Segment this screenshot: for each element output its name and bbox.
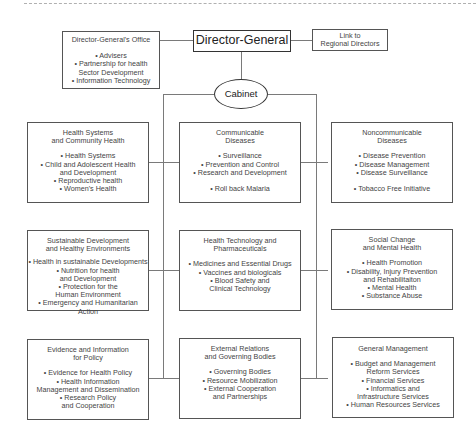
cluster-title: Noncommunicable Diseases <box>332 129 452 145</box>
list-item: • Blood Safety and Clinical Technology <box>180 277 300 293</box>
dg-office-title: Director-General's Office <box>63 36 159 44</box>
list-item: • Emergency and Humanitarian Action <box>28 299 148 315</box>
list-item: • Health Information Management and Diss… <box>28 378 148 394</box>
list-item: • Disability, Injury Prevention and Reha… <box>332 268 452 284</box>
cluster-title: Evidence and Information for Policy <box>28 346 148 362</box>
connector-right-vertical <box>316 94 317 379</box>
dg-office-list: • Advisers • Partnership for health Sect… <box>63 52 159 85</box>
cluster-list: • Medicines and Essential Drugs • Vaccin… <box>180 260 300 293</box>
cluster-title: General Management <box>333 345 453 353</box>
connector-cabinet-right <box>268 94 316 95</box>
dg-office-box: Director-General's Office • Advisers • P… <box>62 31 160 89</box>
list-item: • External Cooperation and Partnerships <box>180 385 300 401</box>
list-item: • Substance Abuse <box>332 292 452 300</box>
cluster-list: • Budget and Management Reform Services … <box>333 360 453 409</box>
cluster-list: • Health Promotion • Disability, Injury … <box>332 259 452 300</box>
top-dashed-rule <box>24 3 476 4</box>
cluster-sustainable-development: Sustainable Development and Healthy Envi… <box>27 230 149 311</box>
list-item: • Roll back Malaria <box>180 185 300 193</box>
cluster-title: Communicable Diseases <box>180 129 300 145</box>
cluster-general-management: General Management • Budget and Manageme… <box>332 337 454 418</box>
cluster-list: • Health Systems • Child and Adolescent … <box>28 152 148 193</box>
list-item: • Information Technology <box>63 77 159 85</box>
cluster-title: Health Systems and Community Health <box>28 129 148 145</box>
cluster-noncommunicable-diseases: Noncommunicable Diseases • Disease Preve… <box>331 122 453 203</box>
connector-cabinet-left <box>163 94 214 95</box>
cluster-title: External Relations and Governing Bodies <box>180 345 300 361</box>
director-general-box: Director-General <box>193 30 291 52</box>
cluster-health-systems: Health Systems and Community Health • He… <box>27 122 149 203</box>
cluster-evidence-information: Evidence and Information for Policy • Ev… <box>27 339 149 420</box>
list-item: • Nutrition for health and Development <box>28 267 148 283</box>
cluster-health-technology: Health Technology and Pharmaceuticals • … <box>179 230 301 311</box>
cluster-list: • Evidence for Health Policy • Health In… <box>28 369 148 410</box>
list-item: • Protection for the Human Environment <box>28 283 148 299</box>
connector-dg-link <box>291 40 312 41</box>
cluster-title: Health Technology and Pharmaceuticals <box>180 237 300 253</box>
cluster-list: • Governing Bodies • Resource Mobilizati… <box>180 368 300 401</box>
cluster-title: Social Change and Mental Health <box>332 236 452 252</box>
list-item: • Disease Surveillance <box>332 169 452 177</box>
list-item: • Research and Development <box>180 169 300 177</box>
list-item: • Budget and Management Reform Services <box>333 360 453 376</box>
list-item: • Research Policy and Cooperation <box>28 394 148 410</box>
connector-left-vertical <box>163 94 164 379</box>
list-item: • Child and Adolescent Health and Develo… <box>28 161 148 177</box>
cluster-list: • Surveillance • Prevention and Control … <box>180 152 300 193</box>
cabinet-node: Cabinet <box>214 79 268 109</box>
cluster-list: • Disease Prevention • Disease Managemen… <box>332 152 452 193</box>
list-item: • Informatics and Infrastructure Service… <box>333 385 453 401</box>
list-item: • Women's Health <box>28 185 148 193</box>
cluster-social-change: Social Change and Mental Health • Health… <box>331 229 453 310</box>
list-item: • Tobacco Free Initiative <box>332 185 452 193</box>
cluster-communicable-diseases: Communicable Diseases • Surveillance • P… <box>179 122 301 203</box>
cluster-external-relations: External Relations and Governing Bodies … <box>179 338 301 419</box>
link-regional-directors-box: Link to Regional Directors <box>312 29 388 51</box>
list-item: • Partnership for health Sector Developm… <box>63 60 159 76</box>
connector-dg-cabinet <box>241 52 242 79</box>
cluster-title: Sustainable Development and Healthy Envi… <box>28 237 148 253</box>
cluster-list: • Health in sustainable Developments • N… <box>28 258 148 315</box>
list-item: • Human Resources Services <box>333 401 453 409</box>
connector-dgoffice-dg <box>159 40 193 41</box>
